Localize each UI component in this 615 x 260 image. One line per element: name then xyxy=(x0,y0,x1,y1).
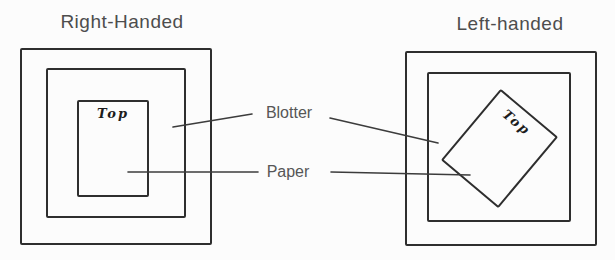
right-handed-paper-rect: Top xyxy=(77,100,149,197)
figure-canvas: Right-Handed Top Left-handed Top Blotter… xyxy=(0,0,615,260)
paper-callout-label: Paper xyxy=(264,163,313,181)
left-handed-title: Left-handed xyxy=(457,13,564,35)
blotter-callout-label: Blotter xyxy=(263,104,315,122)
left-handed-paper-top-label: Top xyxy=(500,106,534,138)
right-handed-paper-top-label: Top xyxy=(97,106,129,121)
right-handed-title: Right-Handed xyxy=(60,11,183,33)
